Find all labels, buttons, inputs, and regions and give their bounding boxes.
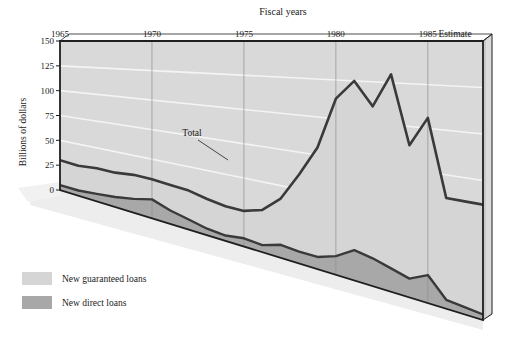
legend-swatch-guaranteed (22, 272, 52, 285)
x-tick-label-1980: 1980 (327, 29, 346, 39)
legend-swatch-direct (22, 296, 52, 309)
y-tick-label-100: 100 (41, 86, 55, 96)
y-tick-label-75: 75 (45, 111, 55, 121)
chart-side-panel-highlight (486, 35, 492, 317)
chart-legend: New guaranteed loans New direct loans (22, 272, 147, 309)
loans-area-chart: 0255075100125150 19651970197519801985 Bi… (0, 0, 514, 341)
y-axis-title: Billions of dollars (18, 97, 28, 166)
y-tick-label-25: 25 (45, 160, 55, 170)
y-tick-label-50: 50 (45, 136, 55, 146)
y-tick-label-0: 0 (50, 185, 55, 195)
x-tick-label-1965: 1965 (51, 29, 70, 39)
x-tick-label-1975: 1975 (235, 29, 254, 39)
x-tick-label-1970: 1970 (143, 29, 162, 39)
y-tick-label-125: 125 (41, 61, 55, 71)
chart-title: Fiscal years (259, 6, 307, 17)
legend-label-guaranteed: New guaranteed loans (62, 274, 147, 284)
annotation-total: Total (182, 128, 202, 138)
estimate-label: Estimate (438, 29, 471, 39)
y-axis: 0255075100125150 (41, 36, 61, 195)
chart-container: 0255075100125150 19651970197519801985 Bi… (0, 0, 514, 341)
x-tick-label-1985: 1985 (419, 29, 438, 39)
legend-label-direct: New direct loans (62, 298, 127, 308)
